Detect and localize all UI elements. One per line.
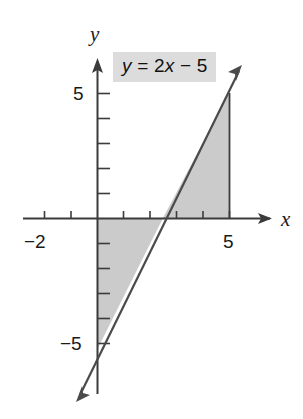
equation-annotation: y = 2x − 5 [113, 52, 216, 82]
x-axis-label: x [281, 209, 290, 230]
shaded-region-below-axis [97, 218, 163, 350]
y-axis-label: y [90, 24, 99, 45]
graph-figure: y = 2x − 5 y x 5 −5 −2 5 [0, 0, 303, 419]
y-tick-label-5: 5 [73, 84, 84, 103]
x-tick-label-5: 5 [223, 232, 234, 251]
y-tick-label-minus5: −5 [60, 334, 82, 353]
x-tick-label-minus2: −2 [24, 232, 46, 251]
equation-text: y = 2x − 5 [122, 55, 207, 76]
